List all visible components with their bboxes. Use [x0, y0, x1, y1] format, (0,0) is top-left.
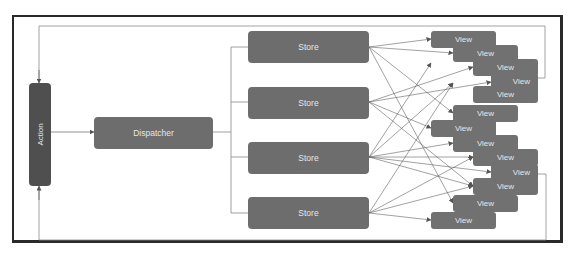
- view-label: View: [455, 216, 472, 225]
- view-label: View: [477, 199, 494, 208]
- dispatcher-label: Dispatcher: [133, 128, 174, 138]
- view-label: View: [477, 109, 494, 118]
- view-label: View: [497, 182, 514, 191]
- view-node-12: View: [453, 195, 518, 212]
- view-label: View: [513, 168, 530, 177]
- dispatcher-node: Dispatcher: [94, 117, 213, 149]
- view-label: View: [497, 63, 514, 72]
- store-node-2: Store: [248, 87, 369, 119]
- view-label: View: [455, 35, 472, 44]
- view-node-11: View: [473, 178, 538, 195]
- store-node-4: Store: [248, 197, 369, 229]
- store-label: Store: [298, 208, 318, 218]
- view-node-13: View: [431, 212, 496, 229]
- store-node-3: Store: [248, 142, 369, 174]
- view-label: View: [497, 90, 514, 99]
- view-label: View: [513, 77, 530, 86]
- store-node-1: Store: [248, 31, 369, 63]
- edge-dispatcher-stores: [213, 47, 248, 213]
- view-label: View: [497, 153, 514, 162]
- view-node-5: View: [473, 86, 538, 103]
- store-label: Store: [298, 153, 318, 163]
- store-label: Store: [298, 42, 318, 52]
- view-label: View: [477, 49, 494, 58]
- store-label: Store: [298, 98, 318, 108]
- view-label: View: [455, 124, 472, 133]
- action-node: Action: [29, 83, 51, 186]
- view-label: View: [477, 139, 494, 148]
- action-label: Action: [36, 123, 45, 145]
